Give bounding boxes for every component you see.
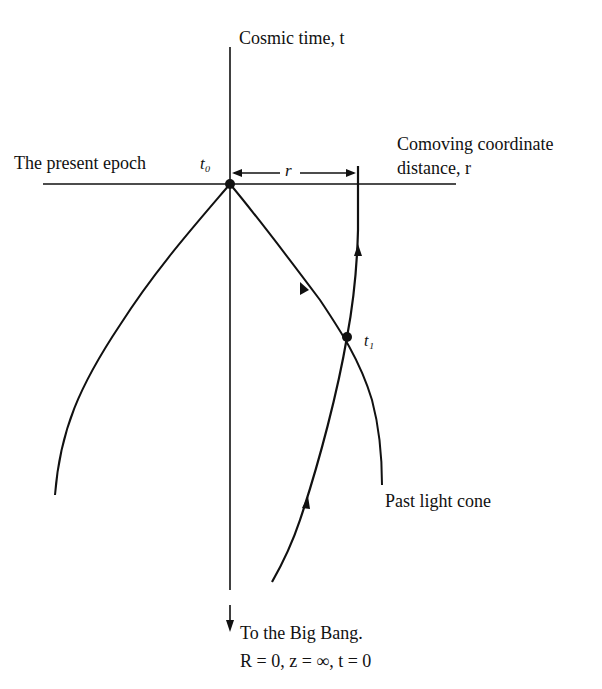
comoving-distance-label-line1: Comoving coordinate: [397, 134, 553, 154]
r-arrowhead-right-icon: [346, 169, 356, 177]
cosmic-time-label: Cosmic time, t: [239, 28, 345, 48]
r-arrowhead-left-icon: [232, 169, 242, 177]
event-t0-dot: [225, 179, 235, 189]
comoving-distance-label-line2: distance, r: [397, 158, 471, 178]
galaxy-worldline: [272, 166, 358, 582]
past-light-cone-label: Past light cone: [385, 491, 491, 511]
event-t1-dot: [342, 332, 352, 342]
cosmology-diagram: Cosmic time, t The present epoch t₀ r Co…: [0, 0, 602, 689]
past-light-cone-right: [230, 184, 382, 485]
big-bang-label-line1: To the Big Bang.: [240, 623, 363, 643]
t1-label: t₁: [364, 331, 374, 351]
t0-label: t₀: [200, 154, 211, 174]
big-bang-arrowhead-icon: [226, 620, 234, 632]
diagram-canvas: [0, 0, 602, 689]
present-epoch-label: The present epoch: [14, 153, 146, 173]
past-light-cone-left: [55, 184, 230, 495]
r-label: r: [285, 161, 292, 181]
worldline-arrow-upper-icon: [354, 244, 362, 256]
big-bang-label-line2: R = 0, z = ∞, t = 0: [240, 651, 371, 671]
